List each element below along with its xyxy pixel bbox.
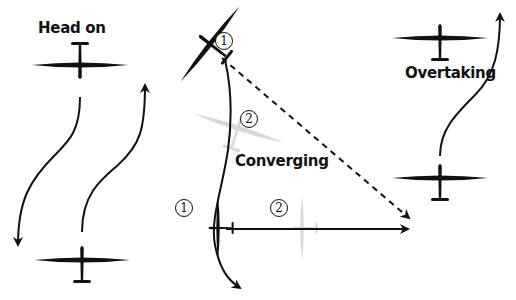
overtaking-group [392,14,500,201]
dashed-collision-line-icon [222,58,409,218]
arrow-head-on-left-icon [18,97,80,245]
glider-head-on-top-icon [32,42,128,79]
arrow-overtaking-icon [440,14,500,156]
glider-1-number-bottom: 1 [175,199,193,217]
glider-overtaken-icon [392,24,488,61]
glider-1-top-icon [169,0,257,96]
converging-group [169,0,409,288]
glider-head-on-bottom-icon [34,246,130,283]
head-on-group [18,42,145,283]
glider-2-number-bottom: 2 [270,199,288,217]
glider-2-number-top: 2 [240,110,258,128]
head-on-label: Head on [38,19,106,37]
converging-label: Converging [235,152,329,170]
diagram-canvas [0,0,516,300]
glider-overtaking-icon [392,164,488,201]
overtaking-label: Overtaking [405,64,496,82]
glider-1-number-top: 1 [215,32,233,50]
arrow-head-on-right-icon [82,85,145,232]
